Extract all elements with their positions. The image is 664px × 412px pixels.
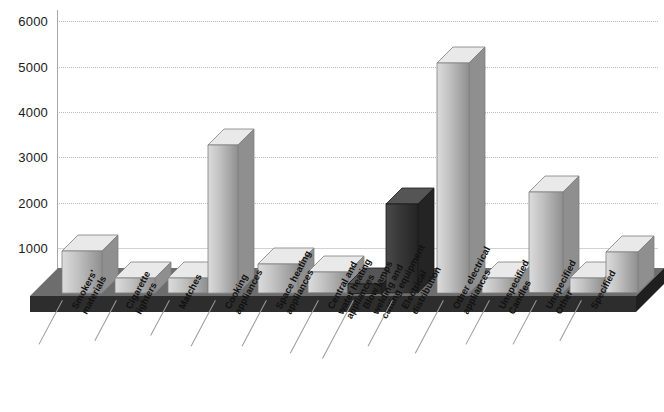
leader-line-1 — [94, 300, 116, 341]
leader-line-3 — [191, 300, 216, 346]
leader-line-0 — [39, 300, 63, 345]
bar-8 — [437, 63, 469, 293]
bar-chart: 6000 5000 4000 3000 2000 1000 0 Smokers'… — [0, 0, 664, 412]
x-axis-labels: Smokers'materialsCigarettelightersMatche… — [0, 300, 664, 412]
leader-line-2 — [150, 300, 170, 336]
plot-area: 6000 5000 4000 3000 2000 1000 0 Smokers'… — [0, 0, 664, 412]
bar-3 — [208, 145, 238, 293]
